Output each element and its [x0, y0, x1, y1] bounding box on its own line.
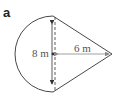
triangle-bottom-side: [53, 54, 112, 92]
composite-shape-diagram: 8 m 6 m: [0, 0, 121, 102]
center-point: [52, 53, 55, 56]
slant-label: 6 m: [74, 42, 91, 54]
diameter-label: 8 m: [32, 47, 49, 59]
